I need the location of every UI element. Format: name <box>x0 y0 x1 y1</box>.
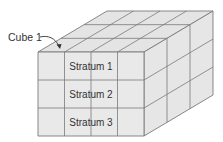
cube-1-callout-label: Cube 1 <box>8 31 42 43</box>
cube-diagram: Stratum 1 Stratum 2 Stratum 3 Cube 1 <box>0 0 223 142</box>
stratum-2-label: Stratum 2 <box>69 89 113 100</box>
stratum-1-label: Stratum 1 <box>69 61 113 72</box>
stratum-3-label: Stratum 3 <box>69 117 113 128</box>
